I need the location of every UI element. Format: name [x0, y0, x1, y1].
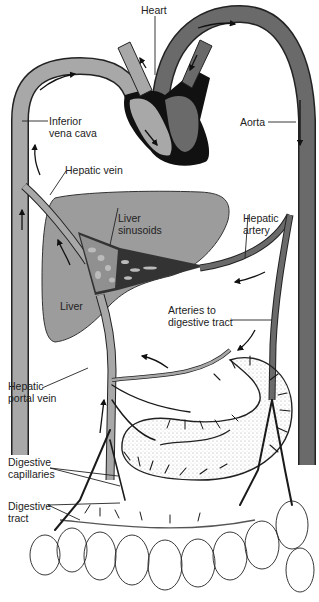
arrow-icon	[235, 272, 265, 282]
label-aorta: Aorta	[240, 116, 265, 128]
digestive-tract	[30, 358, 314, 592]
label-liver-sinusoids: Liver sinusoids	[118, 212, 162, 236]
label-arteries-to-digestive-tract: Arteries to digestive tract	[168, 304, 233, 328]
arrow-icon	[100, 400, 104, 433]
label-digestive-capillaries: Digestive capillaries	[8, 456, 55, 480]
label-hepatic-portal-vein: Hepatic portal vein	[8, 380, 56, 404]
arrow-icon	[142, 356, 168, 368]
arrow-icon	[238, 330, 255, 350]
arrow-icon	[35, 145, 40, 175]
label-liver: Liver	[60, 300, 83, 312]
label-hepatic-vein: Hepatic vein	[65, 164, 123, 176]
label-hepatic-artery: Hepatic artery	[243, 212, 279, 236]
label-inferior-vena-cava: Inferior vena cava	[49, 115, 97, 139]
label-digestive-tract: Digestive tract	[8, 500, 51, 524]
label-heart: Heart	[141, 4, 167, 16]
